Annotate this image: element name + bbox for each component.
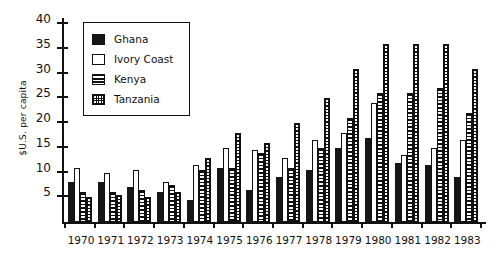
x-axis-tick bbox=[242, 222, 244, 228]
bar-group-1981 bbox=[395, 44, 421, 222]
tanzania-swatch-icon bbox=[92, 94, 105, 105]
legend-label-kenya: Kenya bbox=[114, 74, 146, 85]
bar-group-1976 bbox=[246, 143, 272, 222]
x-axis-label-1974: 1974 bbox=[186, 235, 213, 246]
bar-chart: $U.S. per capita 510152025303540 1970197… bbox=[0, 0, 497, 253]
legend: Ghana Ivory Coast Kenya Tanzania bbox=[83, 22, 190, 116]
x-axis-tick bbox=[64, 222, 66, 228]
x-axis-label-1978: 1978 bbox=[305, 235, 332, 246]
bar-tanzania-1976 bbox=[264, 143, 270, 222]
legend-label-ghana: Ghana bbox=[114, 34, 148, 45]
bar-group-1978 bbox=[306, 98, 332, 222]
y-axis-tick-label: 10 bbox=[36, 162, 51, 174]
bar-tanzania-1975 bbox=[235, 133, 241, 222]
bar-group-1970 bbox=[68, 168, 94, 222]
bar-group-1971 bbox=[98, 173, 124, 223]
bar-group-1977 bbox=[276, 123, 302, 222]
x-axis-tick bbox=[391, 222, 393, 228]
x-axis-tick bbox=[361, 222, 363, 228]
bar-tanzania-1978 bbox=[324, 98, 330, 222]
y-axis-tick: 35 bbox=[57, 47, 68, 49]
x-axis-tick bbox=[272, 222, 274, 228]
y-axis-tick-label: 5 bbox=[43, 186, 51, 198]
bar-tanzania-1974 bbox=[205, 158, 211, 222]
bar-tanzania-1982 bbox=[443, 44, 449, 222]
x-axis-label-1973: 1973 bbox=[157, 235, 184, 246]
legend-label-tanzania: Tanzania bbox=[114, 94, 160, 105]
x-axis-tick bbox=[450, 222, 452, 228]
legend-item: Tanzania bbox=[92, 89, 182, 109]
y-axis-tick: 30 bbox=[57, 72, 68, 74]
x-axis-label-1975: 1975 bbox=[216, 235, 243, 246]
x-axis-label-1977: 1977 bbox=[276, 235, 303, 246]
x-axis-label-1972: 1972 bbox=[127, 235, 154, 246]
bar-group-1982 bbox=[425, 44, 451, 222]
bar-tanzania-1981 bbox=[413, 44, 419, 222]
y-axis-title: $U.S. per capita bbox=[18, 43, 28, 193]
x-axis-tick bbox=[480, 222, 482, 228]
x-axis-label-1981: 1981 bbox=[394, 235, 421, 246]
legend-label-ivory-coast: Ivory Coast bbox=[114, 54, 173, 65]
bar-group-1973 bbox=[157, 182, 183, 222]
ivory-coast-swatch-icon bbox=[92, 54, 105, 65]
bar-group-1975 bbox=[217, 133, 243, 222]
x-axis-tick bbox=[213, 222, 215, 228]
bar-group-1974 bbox=[187, 158, 213, 222]
legend-item: Ghana bbox=[92, 29, 182, 49]
x-axis-tick bbox=[183, 222, 185, 228]
x-axis-tick bbox=[94, 222, 96, 228]
bar-tanzania-1973 bbox=[175, 192, 181, 222]
y-axis-tick-label: 35 bbox=[36, 38, 51, 50]
y-axis-tick-label: 20 bbox=[36, 112, 51, 124]
x-axis-label-1976: 1976 bbox=[246, 235, 273, 246]
x-axis-label-1982: 1982 bbox=[424, 235, 451, 246]
bar-tanzania-1979 bbox=[353, 69, 359, 222]
x-axis-tick bbox=[123, 222, 125, 228]
x-axis-label-1983: 1983 bbox=[454, 235, 481, 246]
x-axis-label-1971: 1971 bbox=[97, 235, 124, 246]
x-axis-label-1970: 1970 bbox=[68, 235, 95, 246]
bar-group-1983 bbox=[454, 69, 480, 222]
ghana-swatch-icon bbox=[92, 34, 105, 45]
bar-tanzania-1977 bbox=[294, 123, 300, 222]
y-axis-tick: 40 bbox=[57, 22, 68, 24]
y-axis-tick-label: 40 bbox=[36, 13, 51, 25]
x-axis-label-1979: 1979 bbox=[335, 235, 362, 246]
y-axis-tick: 15 bbox=[57, 146, 68, 148]
y-axis-tick: 5 bbox=[57, 195, 68, 197]
x-axis-tick bbox=[302, 222, 304, 228]
bar-group-1972 bbox=[127, 170, 153, 222]
bar-tanzania-1971 bbox=[116, 195, 122, 222]
y-axis-tick: 20 bbox=[57, 121, 68, 123]
bar-group-1979 bbox=[335, 69, 361, 222]
y-axis-tick-label: 30 bbox=[36, 63, 51, 75]
bar-tanzania-1980 bbox=[383, 44, 389, 222]
x-axis-tick bbox=[421, 222, 423, 228]
bar-group-1980 bbox=[365, 44, 391, 222]
x-axis-tick bbox=[153, 222, 155, 228]
legend-item: Kenya bbox=[92, 69, 182, 89]
kenya-swatch-icon bbox=[92, 74, 105, 85]
x-axis-tick bbox=[331, 222, 333, 228]
x-axis-label-1980: 1980 bbox=[365, 235, 392, 246]
bar-tanzania-1972 bbox=[145, 197, 151, 222]
y-axis-tick-label: 25 bbox=[36, 87, 51, 99]
y-axis-tick-label: 15 bbox=[36, 137, 51, 149]
bar-tanzania-1970 bbox=[86, 197, 92, 222]
y-axis-tick: 10 bbox=[57, 171, 68, 173]
bar-tanzania-1983 bbox=[472, 69, 478, 222]
legend-item: Ivory Coast bbox=[92, 49, 182, 69]
y-axis-tick: 25 bbox=[57, 96, 68, 98]
